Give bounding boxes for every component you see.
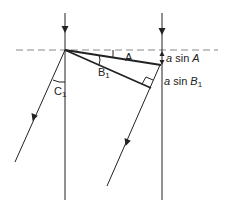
- diagram-canvas: A B1 C1 a sin A a sin B1: [0, 0, 228, 212]
- label-a-sin-A: a sin A: [166, 52, 200, 64]
- wavefront-B1-line: [65, 50, 151, 88]
- label-a-sin-B1: a sin B1: [164, 75, 203, 89]
- right-incident-arrow-icon: [159, 28, 166, 35]
- refracted-ray-B1: [107, 65, 160, 186]
- refracted-ray-C1: [15, 50, 65, 162]
- angle-B1-arc: [99, 55, 100, 65]
- a-sin-A-up-arrow-icon: [160, 51, 165, 56]
- label-angle-A: A: [125, 51, 133, 63]
- angle-C1-arc: [53, 80, 65, 82]
- right-angle-marker: [142, 77, 153, 84]
- left-incident-arrow-icon: [62, 26, 69, 33]
- label-angle-B1: B1: [98, 66, 110, 80]
